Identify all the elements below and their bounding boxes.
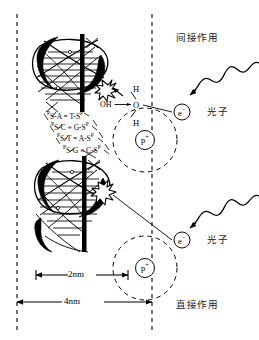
lower-proton-label: p+ [141,262,149,273]
electron-path-to-dna [113,195,172,240]
lower-helix-strand-cross-7 [45,236,88,252]
upper-photon-arrowhead [190,90,196,95]
base-pair-row-3: PS-T = A-SP [57,132,94,143]
lower-dna-helix [35,160,110,252]
base-pair-row-1: PS-A = T-SP [47,110,83,121]
base-pair-row-2: PS-C ≡ G-SP [51,121,89,132]
base-pair-row-2-phosphate-right: P [86,121,89,127]
upper-helix-axis-bar [80,34,85,112]
lower-photon-arrowhead [190,223,196,228]
lower-helix-top-crossing [88,160,100,170]
upper-proton-label: p+ [141,134,149,145]
upper-proton-charge: + [145,134,148,140]
upper-helix-top-crossing [86,38,98,48]
indirect-action-label: 间接作用 [176,30,218,44]
upper-helix-strand-cross-4 [46,56,100,100]
upper-helix-strand-cross-3 [38,47,95,92]
scale-bar-2nm-label: 2nm [68,269,84,279]
lower-helix-node-2 [56,206,59,209]
base-pair-row-2-text: S-C ≡ G-S [54,123,86,132]
water-hydrogen-bottom-label: H [133,118,139,128]
water-hydrogen-top-label: H [133,84,139,94]
upper-helix-node-2 [56,86,59,89]
direct-action-label: 直接作用 [176,297,218,311]
hydroxyl-radical-label: OH · [100,100,116,109]
lower-proton-charge: + [145,262,148,268]
diagram-vector-layer [0,0,259,340]
upper-helix-base-pair-rungs [38,52,102,100]
upper-dna-helix [33,37,108,112]
base-pair-row-1-phosphate-right: P [80,110,83,116]
lower-photon-label: 光子 [207,232,228,246]
lower-helix-strand-cross-5 [39,190,86,234]
radiation-dna-damage-diagram: 间接作用 直接作用 光子 光子 e− p+ e− p+ H H O OH · P… [0,0,259,340]
base-pair-row-3-phosphate-right: P [91,132,94,138]
base-pair-row-3-text: S-T = A-S [60,134,91,143]
base-pair-row-4: PS-G ≡ C-SP [63,144,101,155]
lower-helix-lobe-left [38,160,59,213]
lower-helix-axis-bar [82,156,87,252]
lower-electron-charge: − [182,235,185,241]
lower-photon-wave [192,195,259,225]
water-oxygen-label: O [133,100,139,110]
lower-helix-node-1 [70,170,73,173]
upper-helix-node-1 [68,50,71,53]
lower-helix-base-pair-rungs [39,172,103,235]
lower-electron-label: e− [178,235,185,246]
base-pair-row-4-phosphate-right: P [98,144,101,150]
upper-electron-charge: − [182,107,185,113]
upper-photon-wave [192,62,259,92]
base-pair-row-1-text: S-A = T-S [50,112,80,121]
upper-photon-label: 光子 [207,104,228,118]
scale-bar-4nm-label: 4nm [64,296,80,306]
lower-helix-lobe-bottom [35,218,52,252]
upper-electron-label: e− [178,107,185,118]
base-pair-row-4-text: S-G ≡ C-S [66,146,98,155]
